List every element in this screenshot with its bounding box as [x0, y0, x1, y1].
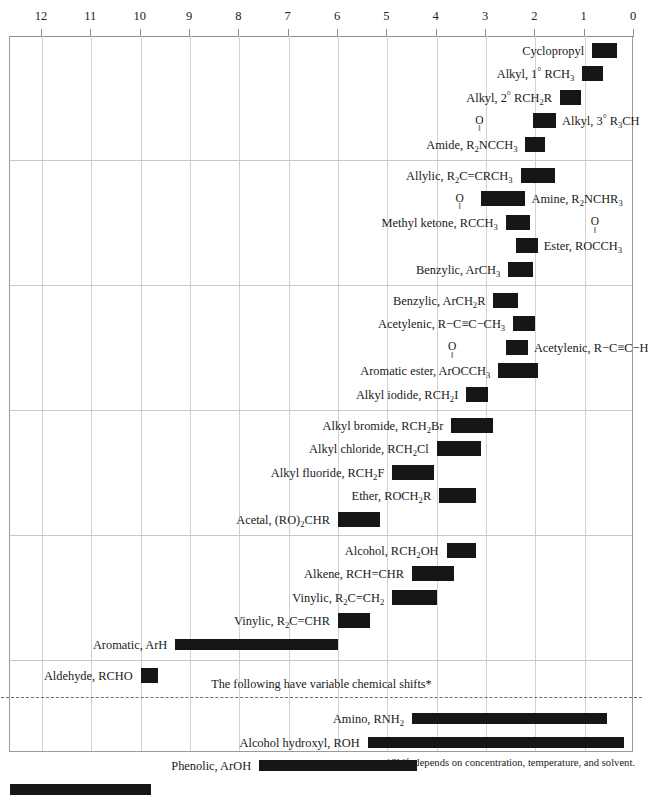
shift-range-bar [338, 512, 380, 527]
shift-range-bar [513, 316, 535, 331]
shift-row: Carboxylic, RCOOH [10, 779, 632, 799]
shift-row-label: Ether, ROCH2R [352, 485, 432, 507]
axis-tick-label-3: 3 [482, 10, 488, 23]
axis-tick-12 [41, 29, 42, 37]
shift-row-label: Amino, RNH2 [333, 708, 404, 730]
footnote: *Shift depends on concentration, tempera… [386, 757, 635, 768]
axis-tick-6 [337, 29, 338, 37]
shift-row-label: Alkyl chloride, RCH2Cl [309, 438, 429, 460]
shift-range-bar [481, 191, 525, 206]
axis-tick-label-12: 12 [35, 10, 48, 23]
shift-row: Alkene, RCH=CHR [10, 563, 632, 585]
shift-row: Alkyl, 3° R3CH [10, 110, 632, 132]
shift-row: Amine, R2NCHR3 [10, 188, 632, 210]
shift-row-label: Amine, R2NCHR3 [531, 188, 622, 210]
axis-tick-0 [633, 29, 634, 37]
axis-tick-label-9: 9 [186, 10, 192, 23]
shift-range-bar [437, 441, 481, 456]
shift-row-label: Alkene, RCH=CHR [304, 563, 404, 585]
shift-row-label: Alkyl, 2° RCH2R [466, 87, 552, 109]
shift-row: Alcohol hydroxyl, ROH [10, 732, 632, 754]
shift-row: Aromatic, ArH [10, 634, 632, 656]
shift-row-label: Amide, R2NCCH3 [426, 134, 517, 156]
shift-row: Alkyl iodide, RCH2I [10, 384, 632, 406]
shift-range-bar [560, 90, 581, 105]
shift-row-label: Benzylic, ArCH2R [393, 290, 485, 312]
variable-shift-dashed-divider [1, 697, 642, 698]
shift-row-label: Methyl ketone, RCCH3 [382, 212, 498, 234]
shift-row: Ester, ROCCH3O‖ [10, 235, 632, 257]
shift-row-label: Acetylenic, R−C≡C−CH3 [378, 313, 505, 335]
section-divider-3 [10, 410, 632, 411]
shift-row: Alkyl, 2° RCH2R [10, 87, 632, 109]
shift-range-bar [533, 113, 556, 128]
shift-range-bar [508, 262, 533, 277]
shift-row: Alcohol, RCH2OH [10, 540, 632, 562]
axis-tick-label-7: 7 [285, 10, 291, 23]
shift-row-label: Alkyl fluoride, RCH2F [271, 462, 384, 484]
shift-row: Acetylenic, R−C≡C−CH3 [10, 313, 632, 335]
shift-range-bar [493, 293, 518, 308]
carbonyl-group-icon: O‖ [475, 115, 483, 134]
axis-tick-label-5: 5 [383, 10, 389, 23]
shift-row-label: Aromatic ester, ArOCCH3 [360, 360, 490, 382]
axis-tick-10 [140, 29, 141, 37]
axis-tick-7 [288, 29, 289, 37]
shift-row: Alkyl chloride, RCH2Cl [10, 438, 632, 460]
shift-row: Benzylic, ArCH3 [10, 259, 632, 281]
axis-tick-1 [584, 29, 585, 37]
shift-row: Amino, RNH2 [10, 708, 632, 730]
section-divider-1 [10, 160, 632, 161]
axis-tick-4 [436, 29, 437, 37]
shift-row-label: Benzylic, ArCH3 [416, 259, 500, 281]
shift-row-label: Vinylic, R2C=CHR [234, 610, 330, 632]
shift-row: Alkyl, 1° RCH3 [10, 63, 632, 85]
shift-range-bar [582, 66, 603, 81]
shift-range-bar [521, 168, 556, 183]
shift-row: Benzylic, ArCH2R [10, 290, 632, 312]
shift-range-bar [392, 465, 434, 480]
shift-row-label: Alkyl bromide, RCH2Br [322, 415, 443, 437]
axis-tick-label-4: 4 [433, 10, 439, 23]
shift-row: Alkyl fluoride, RCH2F [10, 462, 632, 484]
carbonyl-group-icon: O‖ [448, 341, 456, 360]
shift-row-label: Ester, ROCCH3 [544, 235, 622, 257]
carbonyl-group-icon: O‖ [588, 216, 602, 235]
shift-range-bar [506, 215, 531, 230]
axis-tick-2 [534, 29, 535, 37]
axis-tick-5 [386, 29, 387, 37]
shift-row-label: Acetylenic, R−C≡C−H [534, 337, 649, 359]
shift-row-label: Alcohol hydroxyl, ROH [239, 732, 359, 754]
shift-range-bar [439, 488, 476, 503]
shift-row: Vinylic, R2C=CHR [10, 610, 632, 632]
axis-tick-label-1: 1 [581, 10, 587, 23]
shift-row-label: Aromatic, ArH [93, 634, 167, 656]
axis-tick-8 [238, 29, 239, 37]
shift-range-bar [451, 418, 493, 433]
shift-row-label: Alcohol, RCH2OH [345, 540, 439, 562]
axis-tick-label-11: 11 [84, 10, 96, 23]
carbonyl-group-icon: O‖ [455, 193, 463, 212]
plot-area: CyclopropylAlkyl, 1° RCH3Alkyl, 2° RCH2R… [9, 36, 633, 752]
shift-range-bar [392, 590, 436, 605]
axis-tick-label-8: 8 [235, 10, 241, 23]
shift-range-bar [368, 737, 625, 748]
shift-row: Ether, ROCH2R [10, 485, 632, 507]
axis-tick-11 [90, 29, 91, 37]
shift-range-bar [447, 543, 477, 558]
shift-row: Acetal, (RO)2CHR [10, 509, 632, 531]
section-divider-5 [10, 660, 632, 661]
shift-row-label: Acetal, (RO)2CHR [236, 509, 330, 531]
shift-row-label: Vinylic, R2C=CH2 [292, 587, 384, 609]
shift-row-label: Cyclopropyl [522, 40, 584, 62]
shift-row: Aromatic ester, ArOCCH3O‖ [10, 360, 632, 382]
axis-tick-label-0: 0 [630, 10, 636, 23]
shift-range-bar [498, 363, 537, 378]
axis-tick-3 [485, 29, 486, 37]
shift-range-bar [466, 387, 488, 402]
shift-row-label: Alkyl, 1° RCH3 [497, 63, 575, 85]
axis-tick-label-6: 6 [334, 10, 340, 23]
shift-range-bar [506, 340, 528, 355]
shift-range-bar [516, 238, 538, 253]
